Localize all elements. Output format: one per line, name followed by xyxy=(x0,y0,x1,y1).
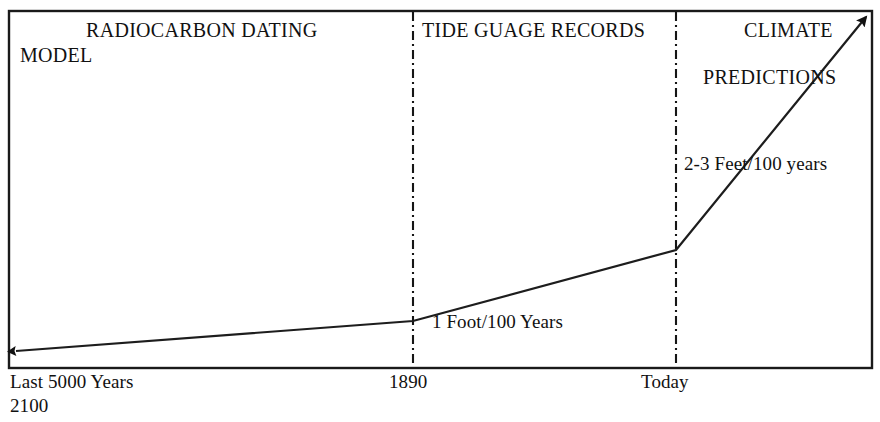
axis-label-today: Today xyxy=(641,372,689,393)
annotation-projected-rate: 2-3 Feet/100 years xyxy=(684,154,827,175)
axis-label-1890: 1890 xyxy=(389,372,427,393)
panel-heading-radiocarbon-line2: MODEL xyxy=(20,45,93,67)
sea-level-rise-figure: RADIOCARBON DATING MODEL TIDE GUAGE RECO… xyxy=(0,0,880,422)
annotation-historic-rate: 1 Foot/100 Years xyxy=(432,312,563,333)
panel-heading-climate-line2: PREDICTIONS xyxy=(703,67,836,89)
axis-label-2100: 2100 xyxy=(10,396,48,417)
figure-canvas xyxy=(0,0,880,422)
panel-heading-tide-gauge: TIDE GUAGE RECORDS xyxy=(422,20,645,42)
panel-heading-climate: CLIMATE xyxy=(744,20,833,42)
panel-heading-radiocarbon: RADIOCARBON DATING xyxy=(86,20,318,42)
axis-label-last-5000-years: Last 5000 Years xyxy=(10,372,133,393)
